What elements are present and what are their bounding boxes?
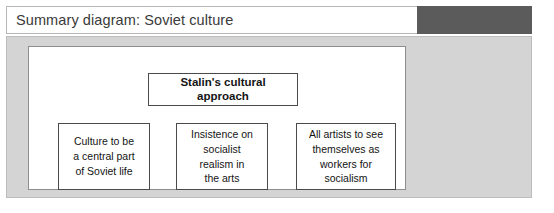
line: of Soviet life xyxy=(75,165,132,177)
page-title: Summary diagram: Soviet culture xyxy=(7,12,233,28)
diagram-node-child-3-label: All artists to see themselves as workers… xyxy=(306,127,386,187)
summary-diagram-screenshot: Summary diagram: Soviet culture Stalin's… xyxy=(0,0,554,213)
line: realism in xyxy=(200,158,245,170)
line: socialism xyxy=(324,172,367,184)
diagram-node-child-3: All artists to see themselves as workers… xyxy=(296,123,396,190)
line: socialist xyxy=(203,143,240,155)
title-bar-label-area: Summary diagram: Soviet culture xyxy=(6,6,417,34)
diagram-node-root-label: Stalin's cultural approach xyxy=(149,76,297,104)
diagram-node-child-2-label: Insistence on socialist realism in the a… xyxy=(188,127,256,187)
line: Culture to be xyxy=(74,135,134,147)
diagram-node-root: Stalin's cultural approach xyxy=(148,73,298,106)
title-bar: Summary diagram: Soviet culture xyxy=(6,6,532,34)
title-bar-dark-block xyxy=(417,6,532,34)
diagram-node-child-1-label: Culture to be a central part of Soviet l… xyxy=(70,134,137,179)
line: workers for xyxy=(320,158,372,170)
diagram-node-child-2: Insistence on socialist realism in the a… xyxy=(176,123,268,190)
line: a central part xyxy=(73,150,134,162)
line: Insistence on xyxy=(191,128,253,140)
line: All artists to see xyxy=(309,128,383,140)
line: the arts xyxy=(204,172,239,184)
diagram-panel: Stalin's cultural approach Culture to be… xyxy=(6,36,532,198)
line: themselves as xyxy=(312,143,379,155)
diagram-node-child-1: Culture to be a central part of Soviet l… xyxy=(58,123,150,190)
diagram-canvas: Stalin's cultural approach Culture to be… xyxy=(28,46,406,190)
